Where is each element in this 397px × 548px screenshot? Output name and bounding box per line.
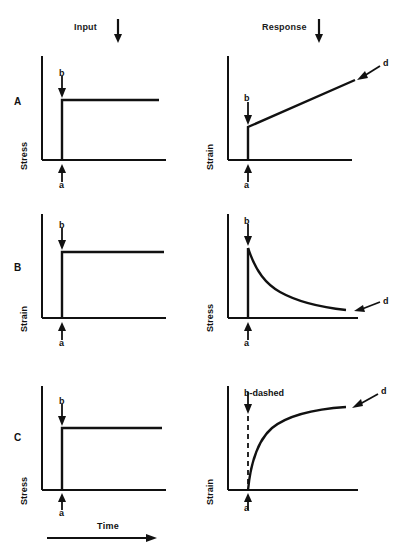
response-column-label: Response bbox=[262, 22, 307, 32]
marker-label-b-b-response: b bbox=[244, 216, 250, 226]
chart-c-input bbox=[36, 382, 176, 514]
down-arrow-icon bbox=[110, 18, 126, 44]
marker-label-b-c-input: b bbox=[59, 396, 65, 406]
marker-label-b-a-response: b bbox=[244, 93, 250, 103]
marker-label-b-b-input: b bbox=[59, 220, 65, 230]
chart-a-input bbox=[36, 52, 176, 187]
y-axis-label-b-response: Stress bbox=[205, 304, 215, 332]
row-label-a: A bbox=[14, 96, 21, 107]
input-column-label: Input bbox=[74, 22, 97, 32]
marker-label-a-b-response: a bbox=[244, 338, 249, 348]
marker-label-a-c-input: a bbox=[59, 508, 64, 518]
marker-label-d-b-response: d bbox=[383, 296, 389, 306]
marker-label-b-a-input: b bbox=[59, 68, 65, 78]
chart-a-response bbox=[222, 52, 394, 187]
time-axis-label: Time bbox=[97, 521, 119, 531]
chart-b-response bbox=[222, 210, 394, 345]
y-axis-label-c-response: Strain bbox=[205, 479, 215, 505]
down-arrow-icon bbox=[311, 18, 327, 44]
marker-label-d-a-response: d bbox=[383, 58, 389, 68]
marker-label-a-a-response: a bbox=[244, 180, 249, 190]
row-label-b: B bbox=[14, 262, 21, 273]
marker-label-a-b-input: a bbox=[59, 338, 64, 348]
marker-label-a-a-input: a bbox=[59, 180, 64, 190]
marker-label-d-c-response: d bbox=[381, 386, 387, 396]
rheology-figure: Input Response A Stress b a Strain bbox=[0, 0, 397, 548]
marker-label-b-c-response: b-dashed bbox=[244, 388, 284, 398]
y-axis-label-a-response: Strain bbox=[205, 144, 215, 170]
y-axis-label-c-input: Stress bbox=[19, 477, 29, 505]
row-label-c: C bbox=[14, 432, 21, 443]
chart-b-input bbox=[36, 210, 176, 345]
marker-label-a-c-response: a bbox=[244, 503, 249, 513]
right-arrow-icon bbox=[47, 533, 162, 545]
y-axis-label-b-input: Strain bbox=[19, 306, 29, 332]
y-axis-label-a-input: Stress bbox=[19, 142, 29, 170]
chart-c-response bbox=[222, 382, 394, 514]
